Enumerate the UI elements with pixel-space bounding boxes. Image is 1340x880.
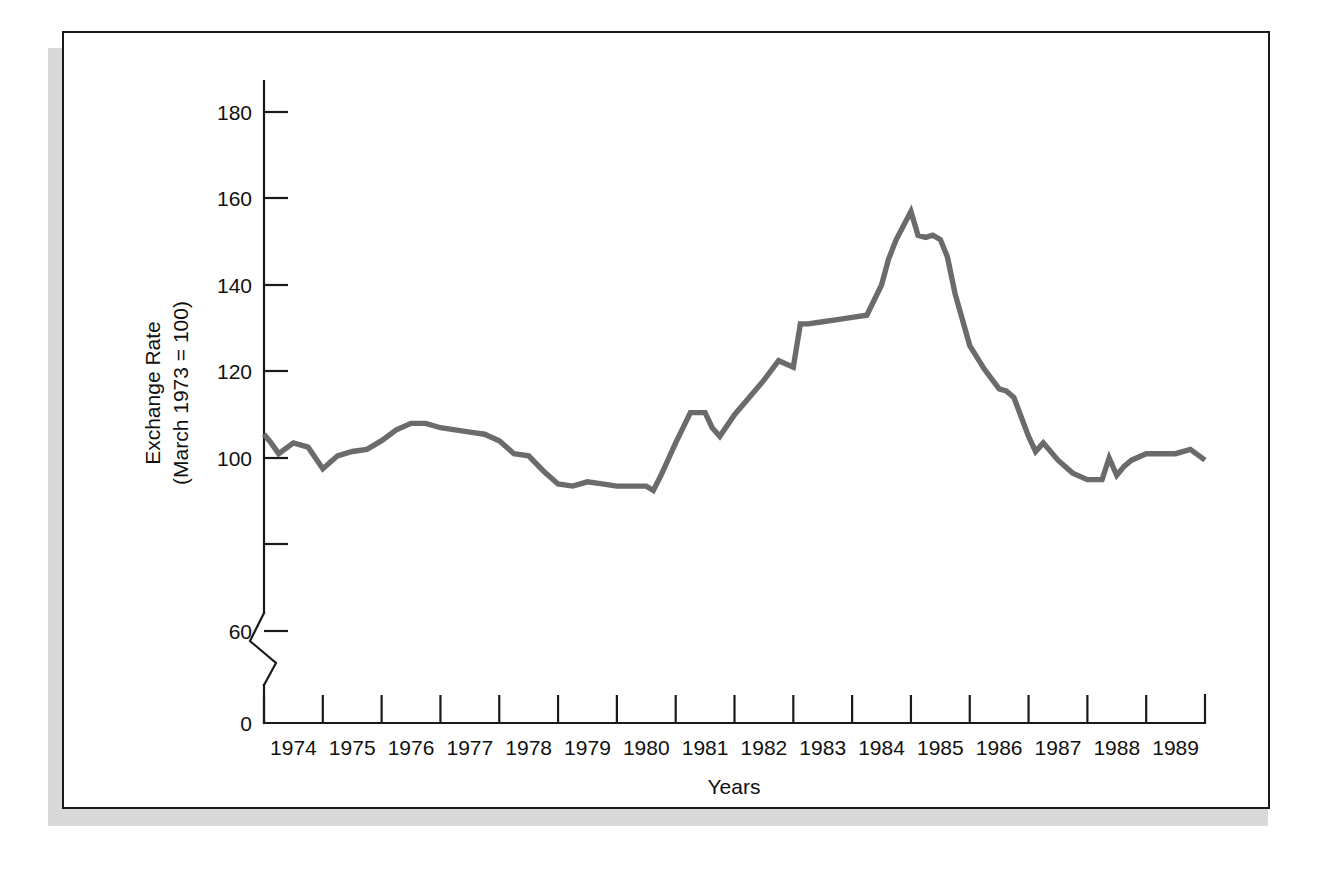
x-tick-label-1986: 1986 <box>976 736 1023 759</box>
x-tick-label-1977: 1977 <box>446 736 493 759</box>
y-tick-label-140: 140 <box>217 274 252 297</box>
x-tick-label-1982: 1982 <box>741 736 788 759</box>
x-tick-label-1981: 1981 <box>682 736 729 759</box>
x-tick-label-1985: 1985 <box>917 736 964 759</box>
x-tick-label-1983: 1983 <box>799 736 846 759</box>
y-axis-title-line2: (March 1973 = 100) <box>169 301 192 485</box>
y-tick-marks <box>264 112 288 631</box>
x-tick-label-1974: 1974 <box>270 736 317 759</box>
figure-root: 180 160 140 120 100 60 0 197419751976197… <box>0 0 1340 880</box>
x-tick-label-1978: 1978 <box>505 736 552 759</box>
chart-frame: 180 160 140 120 100 60 0 197419751976197… <box>62 31 1270 809</box>
y-tick-label-60: 60 <box>229 620 252 643</box>
y-tick-labels: 180 160 140 120 100 60 0 <box>217 101 252 735</box>
x-tick-label-1975: 1975 <box>329 736 376 759</box>
x-tick-label-1980: 1980 <box>623 736 670 759</box>
y-axis-title-line1: Exchange Rate <box>141 321 164 465</box>
x-tick-label-1988: 1988 <box>1093 736 1140 759</box>
x-axis-title: Years <box>708 775 761 798</box>
line-chart: 180 160 140 120 100 60 0 197419751976197… <box>64 33 1268 807</box>
axis-break-zigzag <box>250 613 276 685</box>
data-series-line <box>264 211 1205 490</box>
x-tick-label-1979: 1979 <box>564 736 611 759</box>
x-tick-label-1989: 1989 <box>1152 736 1199 759</box>
x-tick-label-1984: 1984 <box>858 736 905 759</box>
y-tick-label-0: 0 <box>240 712 252 735</box>
x-tick-label-1976: 1976 <box>388 736 435 759</box>
y-tick-label-120: 120 <box>217 360 252 383</box>
y-tick-label-160: 160 <box>217 187 252 210</box>
y-tick-label-100: 100 <box>217 447 252 470</box>
x-tick-marks <box>264 695 1146 723</box>
x-tick-label-1987: 1987 <box>1035 736 1082 759</box>
x-tick-labels: 1974197519761977197819791980198119821983… <box>270 736 1199 759</box>
y-tick-label-180: 180 <box>217 101 252 124</box>
